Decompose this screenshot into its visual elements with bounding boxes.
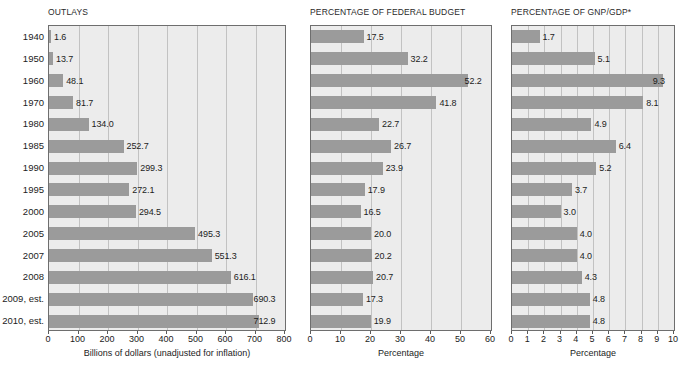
x-tick-label: 500 <box>188 334 203 344</box>
year-label: 1960 <box>23 74 44 85</box>
bar[interactable] <box>49 52 53 65</box>
bar[interactable] <box>49 315 259 328</box>
panel-federal-budget: PERCENTAGE OF FEDERAL BUDGET 17.532.252.… <box>300 0 500 370</box>
bar[interactable] <box>311 118 379 131</box>
bar-value-label: 3.7 <box>575 185 587 195</box>
bar[interactable] <box>512 96 643 109</box>
bar[interactable] <box>49 30 51 43</box>
bar[interactable] <box>49 74 63 87</box>
bar-value-label: 4.9 <box>594 119 606 129</box>
bar[interactable] <box>512 30 540 43</box>
bar-row: 32.2 <box>311 52 491 65</box>
bar-value-label: 32.2 <box>411 54 428 64</box>
bar-row: 4.0 <box>512 227 674 240</box>
year-label: 2000 <box>23 205 44 216</box>
bar[interactable] <box>512 52 595 65</box>
bar-value-label: 4.0 <box>580 229 592 239</box>
bar[interactable] <box>49 183 129 196</box>
chart-title-gnp-gdp: PERCENTAGE OF GNP/GDP* <box>511 7 631 17</box>
bar-row: 22.7 <box>311 118 491 131</box>
plot-area-outlays: 1.613.748.181.7134.0252.7299.3272.1294.5… <box>48 25 286 331</box>
bar[interactable] <box>512 293 590 306</box>
bar[interactable] <box>512 271 582 284</box>
bar[interactable] <box>311 74 468 87</box>
bar-value-label: 5.2 <box>599 163 611 173</box>
x-tick-label: 8 <box>638 334 643 344</box>
bar-value-label: 616.1 <box>234 272 256 282</box>
x-tick-label: 9 <box>654 334 659 344</box>
bar[interactable] <box>512 162 596 175</box>
x-axis-title-gnp-gdp: Percentage <box>511 348 675 358</box>
bar[interactable] <box>512 74 663 87</box>
bar[interactable] <box>311 315 371 328</box>
x-tick-label: 100 <box>70 334 85 344</box>
bar-value-label: 20.7 <box>376 272 393 282</box>
bar-row: 26.7 <box>311 140 491 153</box>
bar[interactable] <box>311 249 372 262</box>
bar[interactable] <box>512 315 590 328</box>
bar[interactable] <box>49 293 253 306</box>
bar-value-label: 294.5 <box>139 207 161 217</box>
bar[interactable] <box>49 227 195 240</box>
bar-row: 252.7 <box>49 140 285 153</box>
x-tick-label: 3 <box>557 334 562 344</box>
x-tick-label: 0 <box>307 334 312 344</box>
x-tick-label: 0 <box>45 334 50 344</box>
bar-value-label: 4.3 <box>585 272 597 282</box>
x-axis-title-outlays: Billions of dollars (unadjusted for infl… <box>48 348 286 358</box>
bar[interactable] <box>311 140 391 153</box>
bar-value-label: 690.3 <box>254 294 276 304</box>
bar-value-label: 4.8 <box>593 316 605 326</box>
bar[interactable] <box>512 118 591 131</box>
bar[interactable] <box>311 52 408 65</box>
bar-value-label: 20.2 <box>375 251 392 261</box>
bars-group: 1.75.19.38.14.96.45.23.73.04.04.04.34.84… <box>512 26 674 330</box>
bar[interactable] <box>49 162 137 175</box>
x-tick-label: 10 <box>335 334 345 344</box>
bar[interactable] <box>49 140 124 153</box>
bar-row: 3.0 <box>512 205 674 218</box>
bar[interactable] <box>512 249 577 262</box>
bars-group: 1.613.748.181.7134.0252.7299.3272.1294.5… <box>49 26 285 330</box>
x-tick-label: 40 <box>425 334 435 344</box>
bar-row: 52.2 <box>311 74 491 87</box>
bar[interactable] <box>49 205 136 218</box>
bar[interactable] <box>512 140 616 153</box>
bar[interactable] <box>512 227 577 240</box>
bar-row: 20.7 <box>311 271 491 284</box>
bar[interactable] <box>311 96 436 109</box>
bar-value-label: 13.7 <box>56 54 73 64</box>
x-tick-label: 200 <box>99 334 114 344</box>
bar-row: 551.3 <box>49 249 285 262</box>
bar[interactable] <box>512 183 572 196</box>
x-tick-label: 30 <box>395 334 405 344</box>
bar-row: 272.1 <box>49 183 285 196</box>
bar[interactable] <box>49 249 212 262</box>
bar-value-label: 17.9 <box>368 185 385 195</box>
panel-gnp-gdp: PERCENTAGE OF GNP/GDP* 1.75.19.38.14.96.… <box>500 0 689 370</box>
bar[interactable] <box>311 293 363 306</box>
bar-value-label: 8.1 <box>646 98 658 108</box>
bar-row: 4.9 <box>512 118 674 131</box>
bar[interactable] <box>49 118 89 131</box>
bar-row: 3.7 <box>512 183 674 196</box>
bar-value-label: 495.3 <box>198 229 220 239</box>
bar[interactable] <box>311 30 364 43</box>
bar-row: 23.9 <box>311 162 491 175</box>
plot-area-gnp-gdp: 1.75.19.38.14.96.45.23.73.04.04.04.34.84… <box>511 25 675 331</box>
bar[interactable] <box>311 205 361 218</box>
bar[interactable] <box>311 271 373 284</box>
bar[interactable] <box>512 205 561 218</box>
bar[interactable] <box>311 183 365 196</box>
year-label: 1980 <box>23 118 44 129</box>
bar[interactable] <box>311 162 383 175</box>
bar[interactable] <box>311 227 371 240</box>
bar[interactable] <box>49 96 73 109</box>
bar-row: 17.5 <box>311 30 491 43</box>
bar-value-label: 4.8 <box>593 294 605 304</box>
bar-row: 4.8 <box>512 293 674 306</box>
bar-value-label: 9.3 <box>653 76 665 86</box>
bar-row: 294.5 <box>49 205 285 218</box>
x-axis-title-federal-budget: Percentage <box>310 348 492 358</box>
bar[interactable] <box>49 271 231 284</box>
